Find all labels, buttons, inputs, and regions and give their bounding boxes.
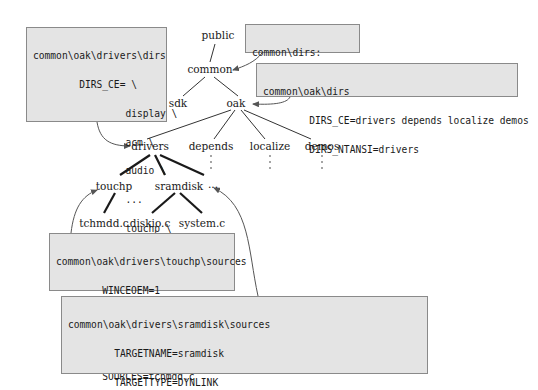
code-line: audio \ <box>33 166 161 176</box>
code-line: common\oak\drivers\touchp\sources <box>56 257 229 267</box>
sramdisk-sources-box: common\oak\drivers\sramdisk\sources TARG… <box>61 296 428 374</box>
code-line: common\oak\dirs <box>263 87 512 97</box>
drivers-dirs-box: common\oak\drivers\dirs DIRS_CE= \ displ… <box>26 27 167 122</box>
node-common: common <box>187 63 232 75</box>
touchp-sources-box: common\oak\drivers\touchp\sources WINCEO… <box>49 233 235 291</box>
code-line: TARGETTYPE=DYNLINK <box>68 378 422 388</box>
code-line: DIRS_NTANSI=drivers <box>263 145 512 155</box>
node-depends: depends <box>189 140 234 152</box>
node-system-c: system.c <box>179 217 225 229</box>
build-tree-diagram: public common sdk oak drivers depends lo… <box>0 0 538 390</box>
code-line: WINCEOEM=1 <box>56 286 229 296</box>
code-line: acm \ <box>33 138 161 148</box>
node-public: public <box>202 29 235 41</box>
code-line: display \ <box>33 109 161 119</box>
node-sramdisk: sramdisk <box>155 180 203 192</box>
code-line: DIRS_CE= \ <box>33 80 161 90</box>
common-dirs-box: common\dirs: DIRS=oak sdk <box>245 24 360 53</box>
code-line: TARGETNAME=sramdisk <box>68 349 422 359</box>
code-line: common\dirs: <box>252 48 354 58</box>
oak-dirs-box: common\oak\dirs DIRS_CE=drivers depends … <box>256 63 518 97</box>
node-drivers-more: ... <box>208 178 218 190</box>
code-line: ... <box>33 195 161 205</box>
code-line: common\oak\drivers\sramdisk\sources <box>68 320 422 330</box>
code-line: DIRS_CE=drivers depends localize demos <box>263 116 512 126</box>
code-line: common\oak\drivers\dirs <box>33 51 161 61</box>
node-oak: oak <box>227 97 246 109</box>
